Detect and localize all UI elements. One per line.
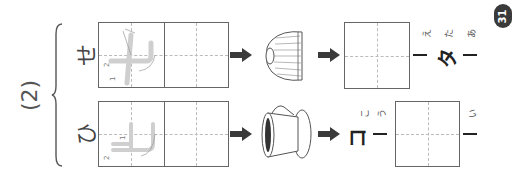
long-vowel-mark [463,133,477,135]
answer-kana-ko: コ [346,123,366,152]
guide-line [428,102,429,166]
furigana: え [422,27,431,40]
arrow-right-icon [318,127,340,141]
practice-box-hi[interactable]: 1 2 [98,101,229,167]
furigana: こ [360,107,369,120]
row-se: せ 2 1 え タ た [0,0,516,95]
guide-line [196,102,197,166]
svg-text:1: 1 [119,136,127,140]
trace-guide-se-icon: 2 1 [101,25,161,87]
answer-box-se[interactable] [344,22,410,89]
long-vowel-mark [413,54,427,56]
guide-line [377,23,378,88]
row-hi: ひ 1 2 コ こ う [0,95,516,189]
guide-line [196,23,197,87]
long-vowel-mark [463,54,477,56]
box-divider [164,23,165,87]
arrow-right-icon [230,48,252,62]
arrow-right-icon [230,127,252,141]
furigana: う [377,107,386,120]
answer-box-hi[interactable] [395,101,460,167]
box-divider [164,102,165,166]
coffee-cup-picture-icon [258,103,312,165]
arrow-right-icon [318,48,340,62]
svg-text:2: 2 [103,63,111,67]
answer-kana-ta: タ [436,43,456,72]
furigana: た [444,27,453,40]
furigana: あ [467,27,476,40]
kana-hi: ひ [68,123,100,145]
trace-guide-hi-icon: 1 2 [101,104,161,166]
furigana: い [468,107,477,120]
long-vowel-mark [373,133,387,135]
practice-box-se[interactable]: 2 1 [98,22,229,88]
kana-se: せ [68,44,100,66]
svg-text:1: 1 [109,77,117,81]
svg-text:2: 2 [103,156,111,160]
kana-label: せ [72,43,96,67]
sweater-picture-icon [262,28,308,84]
kana-label: ひ [72,122,96,146]
